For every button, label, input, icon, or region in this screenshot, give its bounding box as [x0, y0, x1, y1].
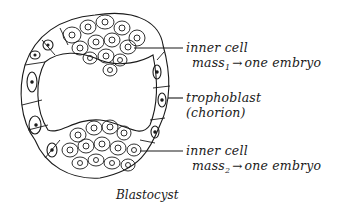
label-icm1-line2: mass1→one embryo — [192, 55, 321, 70]
label-icm1-subscript: 1 — [225, 63, 230, 72]
label-icm2-result: one embryo — [245, 158, 322, 173]
label-icm2-line1: inner cell — [186, 143, 321, 158]
diagram-caption: Blastocyst — [116, 188, 179, 202]
label-trophoblast-line2: (chorion) — [186, 105, 261, 120]
label-icm2-line2: mass2→one embryo — [192, 158, 321, 173]
blastocyst-drawing — [0, 0, 342, 218]
label-icm2-mass: mass — [192, 158, 225, 173]
label-trophoblast: trophoblast (chorion) — [186, 90, 261, 120]
label-icm1-line1: inner cell — [186, 40, 321, 55]
label-trophoblast-line1: trophoblast — [186, 90, 261, 105]
arrow-right-icon: → — [232, 159, 242, 173]
arrow-right-icon: → — [232, 56, 242, 70]
label-icm1-mass: mass — [192, 55, 225, 70]
label-inner-cell-mass-2: inner cell mass2→one embryo — [186, 143, 321, 173]
label-icm1-result: one embryo — [245, 55, 322, 70]
label-icm2-subscript: 2 — [225, 166, 230, 175]
label-inner-cell-mass-1: inner cell mass1→one embryo — [186, 40, 321, 70]
